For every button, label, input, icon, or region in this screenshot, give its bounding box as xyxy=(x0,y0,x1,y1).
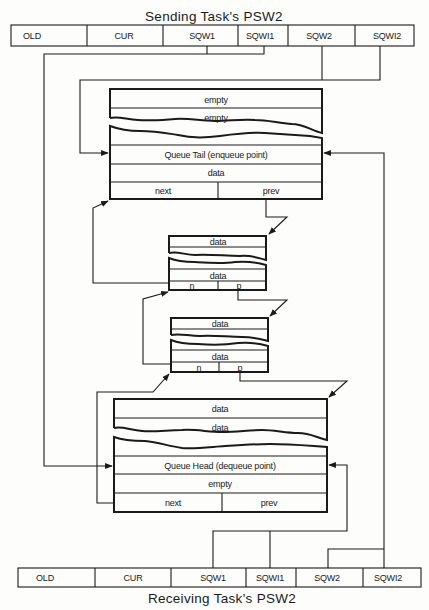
middle-block-1: data data n p xyxy=(169,236,266,291)
sending-sqwi2-to-tail-arrow xyxy=(80,46,380,153)
sending-field-cur: CUR xyxy=(115,31,135,41)
sending-field-sqwi2: SQWI2 xyxy=(373,31,401,41)
tail-prev-field: prev xyxy=(263,186,280,196)
block1-row-data-1: data xyxy=(210,237,227,247)
receiving-psw2: OLD CUR SQW1 SQWI1 SQW2 SQWI2 Receiving … xyxy=(18,568,421,606)
block2-row-data-1: data xyxy=(212,319,229,329)
head-row-queue-head: Queue Head (dequeue point) xyxy=(164,461,276,471)
block2-prev-field: p xyxy=(238,363,243,373)
block1-next-arrow xyxy=(93,201,169,283)
block1-prev-arrow xyxy=(238,290,287,316)
head-next-arrow xyxy=(97,374,169,503)
middle-block-2: data data n p xyxy=(171,318,268,373)
tail-next-field: next xyxy=(155,186,172,196)
receiving-sqwi2-to-tail-arrow xyxy=(324,153,384,568)
receiving-field-cur: CUR xyxy=(124,573,144,583)
head-next-field: next xyxy=(165,498,182,508)
tail-row-queue-tail: Queue Tail (enqueue point) xyxy=(164,150,267,160)
receiving-field-sqw1: SQW1 xyxy=(200,573,226,583)
head-row-empty: empty xyxy=(208,479,232,489)
receiving-field-old: OLD xyxy=(36,573,55,583)
queue-diagram: Sending Task's PSW2 OLD CUR SQW1 SQWI1 S… xyxy=(0,0,429,610)
sending-field-sqw2: SQW2 xyxy=(306,31,332,41)
sending-field-old: OLD xyxy=(23,31,42,41)
tail-prev-arrow xyxy=(266,199,287,234)
block2-next-field: n xyxy=(197,363,202,373)
queue-head-block: data data Queue Head (dequeue point) emp… xyxy=(114,399,327,512)
block1-row-data-2: data xyxy=(210,271,227,281)
receiving-field-sqwi2: SQWI2 xyxy=(374,573,402,583)
head-row-data-2: data xyxy=(212,423,229,433)
receiving-field-sqwi1: SQWI1 xyxy=(256,573,284,583)
sending-psw2: Sending Task's PSW2 OLD CUR SQW1 SQWI1 S… xyxy=(11,9,414,46)
receiving-psw2-title: Receiving Task's PSW2 xyxy=(148,591,296,606)
tail-row-empty-1: empty xyxy=(204,95,228,105)
block1-next-field: n xyxy=(190,281,195,291)
tail-row-empty-2: empty xyxy=(204,113,228,123)
receiving-field-sqw2: SQW2 xyxy=(314,573,340,583)
sending-field-sqwi1: SQWI1 xyxy=(246,31,274,41)
block2-row-data-2: data xyxy=(212,352,229,362)
head-row-data-1: data xyxy=(212,404,229,414)
sending-field-sqw1: SQW1 xyxy=(189,31,215,41)
block2-prev-arrow xyxy=(240,372,347,397)
receiving-sqw2-link xyxy=(328,549,384,568)
block2-next-arrow xyxy=(143,292,171,364)
sending-psw2-title: Sending Task's PSW2 xyxy=(145,9,283,24)
tail-row-data: data xyxy=(208,168,225,178)
block1-prev-field: p xyxy=(237,281,242,291)
queue-tail-block: empty empty Queue Tail (enqueue point) d… xyxy=(110,89,322,199)
connectors xyxy=(44,46,384,568)
head-prev-field: prev xyxy=(261,498,278,508)
